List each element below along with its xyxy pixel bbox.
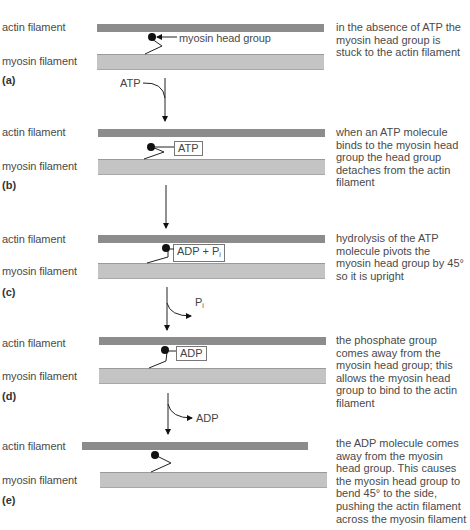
diagram-geometry: [0, 0, 470, 530]
arrow-d-to-e: [168, 393, 192, 434]
myosin-head-c: [147, 244, 174, 263]
myosin-head-d: [149, 346, 176, 368]
myosin-head-b: [144, 143, 174, 159]
myosin-head-e: [151, 451, 171, 472]
arrow-c-to-d: [167, 287, 191, 330]
myosin-head-a: [145, 33, 177, 54]
arrow-a-to-b: [143, 78, 165, 121]
